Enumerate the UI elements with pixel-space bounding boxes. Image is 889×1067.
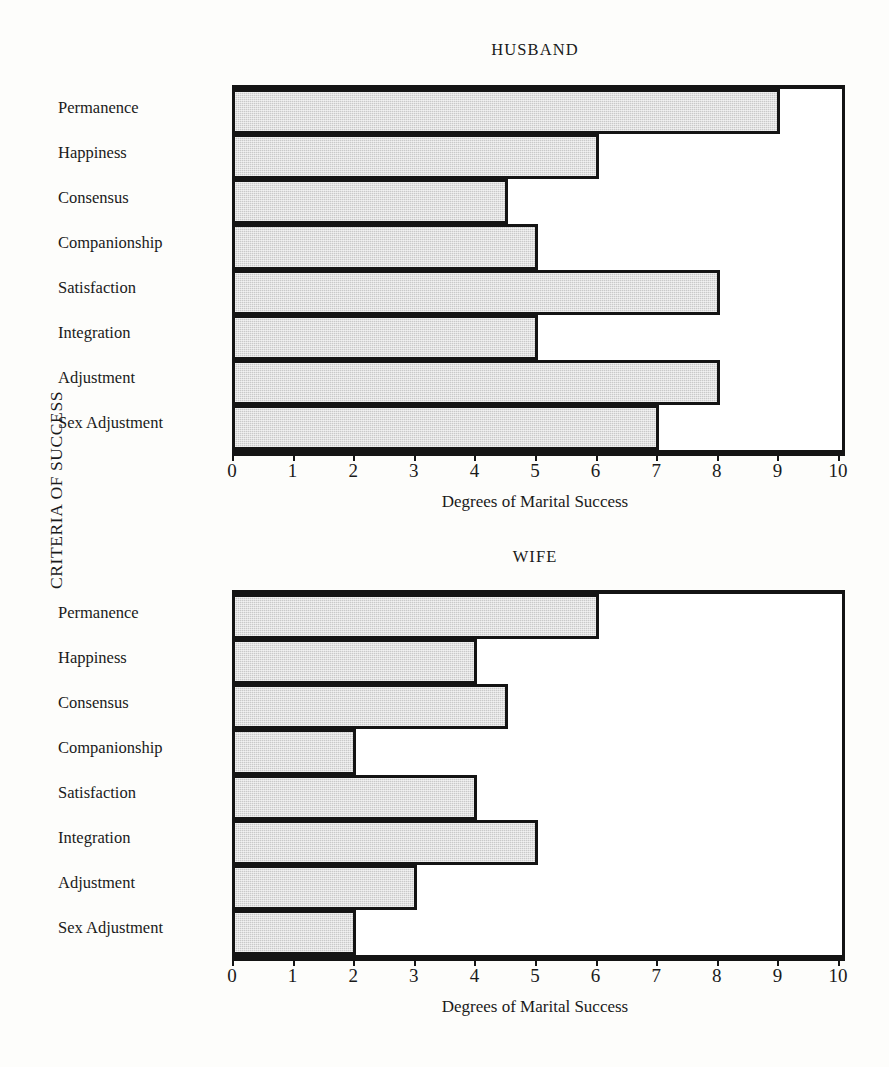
- category-label: Sex Adjustment: [58, 413, 226, 433]
- category-label: Consensus: [58, 693, 226, 713]
- x-axis-tick-label: 8: [697, 965, 737, 987]
- category-label: Permanence: [58, 603, 226, 623]
- x-axis-tick-label: 4: [454, 460, 494, 482]
- bar: [235, 910, 356, 955]
- bar-row: [236, 315, 842, 360]
- bar: [235, 865, 417, 910]
- category-label: Integration: [58, 323, 226, 343]
- bar-row: [236, 134, 842, 179]
- bar-row: [236, 684, 842, 729]
- bar-row: [236, 224, 842, 269]
- x-axis-tick-label: 7: [636, 460, 676, 482]
- bar-row: [236, 270, 842, 315]
- category-label: Consensus: [58, 188, 226, 208]
- category-label: Sex Adjustment: [58, 918, 226, 938]
- category-label: Happiness: [58, 143, 226, 163]
- bar-row: [236, 910, 842, 955]
- bar-row: [236, 594, 842, 639]
- chart-title-husband: HUSBAND: [232, 40, 838, 60]
- bar-row: [236, 639, 842, 684]
- x-axis-tick-label: 9: [757, 965, 797, 987]
- chart-title-wife: WIFE: [232, 547, 838, 567]
- category-label: Satisfaction: [58, 783, 226, 803]
- x-axis-tick-label: 4: [454, 965, 494, 987]
- bar-row: [236, 820, 842, 865]
- x-axis-tick-label: 9: [757, 460, 797, 482]
- bar: [235, 315, 538, 360]
- bar: [235, 594, 599, 639]
- x-axis-wife: 012345678910: [232, 957, 838, 991]
- bar-row: [236, 405, 842, 450]
- category-label: Adjustment: [58, 873, 226, 893]
- x-axis-tick-label: 7: [636, 965, 676, 987]
- x-axis-tick-label: 6: [576, 460, 616, 482]
- bar: [235, 684, 508, 729]
- category-label-group-husband: PermanenceHappinessConsensusCompanionshi…: [58, 85, 226, 446]
- bar: [235, 639, 477, 684]
- marital-success-figure: CRITERIA OF SUCCESS HUSBAND PermanenceHa…: [0, 0, 889, 1067]
- bar-row: [236, 775, 842, 820]
- x-axis-husband: 012345678910: [232, 452, 838, 486]
- x-axis-tick-label: 0: [212, 965, 252, 987]
- bar: [235, 224, 538, 269]
- category-label-group-wife: PermanenceHappinessConsensusCompanionshi…: [58, 590, 226, 951]
- plot-area-wife: [232, 590, 845, 961]
- bar: [235, 729, 356, 774]
- x-axis-tick-label: 3: [394, 460, 434, 482]
- x-axis-tick-label: 0: [212, 460, 252, 482]
- x-axis-tick-label: 5: [515, 965, 555, 987]
- x-axis-tick-label: 1: [273, 460, 313, 482]
- x-axis-tick-label: 3: [394, 965, 434, 987]
- x-axis-tick-label: 8: [697, 460, 737, 482]
- x-axis-tick-label: 6: [576, 965, 616, 987]
- x-axis-tick-label: 10: [818, 965, 858, 987]
- bar: [235, 405, 659, 450]
- category-label: Permanence: [58, 98, 226, 118]
- bar: [235, 89, 780, 134]
- bar: [235, 179, 508, 224]
- x-axis-tick-label: 5: [515, 460, 555, 482]
- category-label: Adjustment: [58, 368, 226, 388]
- x-axis-tick-label: 2: [333, 965, 373, 987]
- bar: [235, 134, 599, 179]
- bar: [235, 820, 538, 865]
- bar-row: [236, 179, 842, 224]
- bar-row: [236, 89, 842, 134]
- x-axis-caption-wife: Degrees of Marital Success: [232, 997, 838, 1017]
- x-axis-caption-husband: Degrees of Marital Success: [232, 492, 838, 512]
- bar-row: [236, 729, 842, 774]
- category-label: Companionship: [58, 233, 226, 253]
- category-label: Companionship: [58, 738, 226, 758]
- category-label: Happiness: [58, 648, 226, 668]
- category-label: Integration: [58, 828, 226, 848]
- bar: [235, 775, 477, 820]
- bar-row: [236, 865, 842, 910]
- category-label: Satisfaction: [58, 278, 226, 298]
- plot-area-husband: [232, 85, 845, 456]
- x-axis-tick-label: 1: [273, 965, 313, 987]
- bar: [235, 270, 720, 315]
- x-axis-tick-label: 10: [818, 460, 858, 482]
- bar-row: [236, 360, 842, 405]
- x-axis-tick-label: 2: [333, 460, 373, 482]
- bar: [235, 360, 720, 405]
